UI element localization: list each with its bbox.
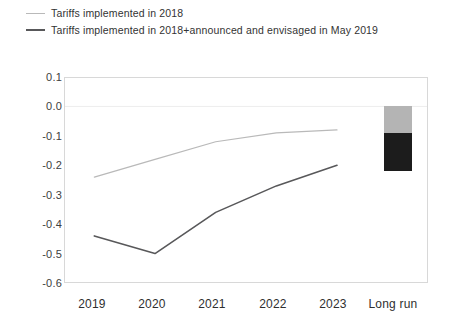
y-tick-label: -0.6 (8, 277, 62, 289)
y-tick-label: -0.3 (8, 189, 62, 201)
y-tick-label: 0.1 (8, 71, 62, 83)
plot-area (64, 77, 428, 283)
y-tick-label: -0.1 (8, 130, 62, 142)
x-tick-label: Long run (353, 296, 433, 312)
legend-label-tariffs-2018-announced: Tariffs implemented in 2018+announced an… (51, 24, 378, 36)
bar-segment-tariffs-2018 (384, 106, 412, 132)
legend-item-tariffs-2018-announced: Tariffs implemented in 2018+announced an… (26, 24, 378, 36)
y-axis: 0.1 0.0 -0.1 -0.2 -0.3 -0.4 -0.5 -0.6 (0, 0, 62, 331)
y-tick-label: -0.5 (8, 248, 62, 260)
legend-label-tariffs-2018: Tariffs implemented in 2018 (51, 7, 183, 19)
y-tick-label: -0.4 (8, 218, 62, 230)
y-tick-label: 0.0 (8, 100, 62, 112)
long-run-bar (384, 106, 412, 171)
x-axis: 2019 2020 2021 2022 2023 Long run (0, 296, 449, 318)
bar-segment-tariffs-2018-announced (384, 133, 412, 171)
chart-container: Tariffs implemented in 2018 Tariffs impl… (0, 0, 449, 331)
y-tick-label: -0.2 (8, 159, 62, 171)
